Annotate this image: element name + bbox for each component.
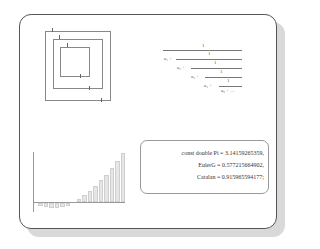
tick-mark: [101, 98, 102, 102]
chart-bar: [49, 203, 54, 208]
fraction-bar: [191, 68, 242, 69]
code-line-pi: const double Pi = 3.14159265359,: [182, 150, 264, 156]
code-equals: =: [217, 174, 220, 180]
chart-bar: [88, 191, 93, 202]
chart-bar: [60, 203, 65, 207]
cf-tail: a₅ + …: [221, 88, 235, 93]
chart-bar: [66, 203, 71, 206]
code-value: 3.14159265359,: [225, 150, 264, 156]
tick-mark: [59, 35, 60, 39]
tick-mark: [52, 28, 53, 32]
cf-term: a₄ +: [204, 83, 212, 88]
chart-bar: [93, 186, 98, 202]
code-line-eulerg: EulerG = 0.577215664902,: [198, 162, 264, 168]
chart-bar: [104, 175, 109, 202]
chart-bar: [121, 153, 126, 202]
chart-bar: [115, 161, 120, 202]
fraction-bar: [176, 59, 242, 60]
cf-inner-numerator: 1: [208, 51, 211, 56]
chart-bar: [110, 168, 115, 202]
fraction-bar: [219, 86, 242, 87]
tick-mark: [80, 74, 81, 78]
code-equals: =: [220, 150, 223, 156]
chart-bar: [44, 203, 49, 207]
tick-mark: [89, 86, 90, 90]
inner-square: [60, 47, 90, 77]
cf-inner-numerator: 1: [214, 60, 217, 65]
code-label: Catalan: [197, 174, 215, 180]
fraction-bar: [205, 77, 242, 78]
fraction-bar: [163, 50, 242, 51]
chart-bar: [82, 195, 87, 202]
code-value: 0.577215664902,: [222, 162, 264, 168]
cf-term: a₃ +: [191, 74, 199, 79]
cf-inner-numerator: 1: [227, 78, 230, 83]
constants-code-box: const double Pi = 3.14159265359, EulerG …: [140, 140, 269, 194]
code-value: 0.915965594177;: [222, 174, 264, 180]
y-axis: [33, 152, 34, 212]
code-equals: =: [217, 162, 220, 168]
tick-mark: [67, 43, 68, 47]
chart-bar: [38, 203, 43, 206]
cf-term: a₁ +: [164, 56, 172, 61]
code-label: EulerG: [198, 162, 215, 168]
cf-numerator: 1: [202, 43, 205, 48]
chart-bar: [55, 203, 60, 208]
code-line-catalan: Catalan = 0.915965594177;: [197, 174, 264, 180]
cf-inner-numerator: 1: [220, 69, 223, 74]
chart-bar: [77, 199, 82, 202]
chart-bar: [99, 180, 104, 202]
cf-term: a₂ +: [177, 65, 185, 70]
code-label: const double Pi: [182, 150, 219, 156]
